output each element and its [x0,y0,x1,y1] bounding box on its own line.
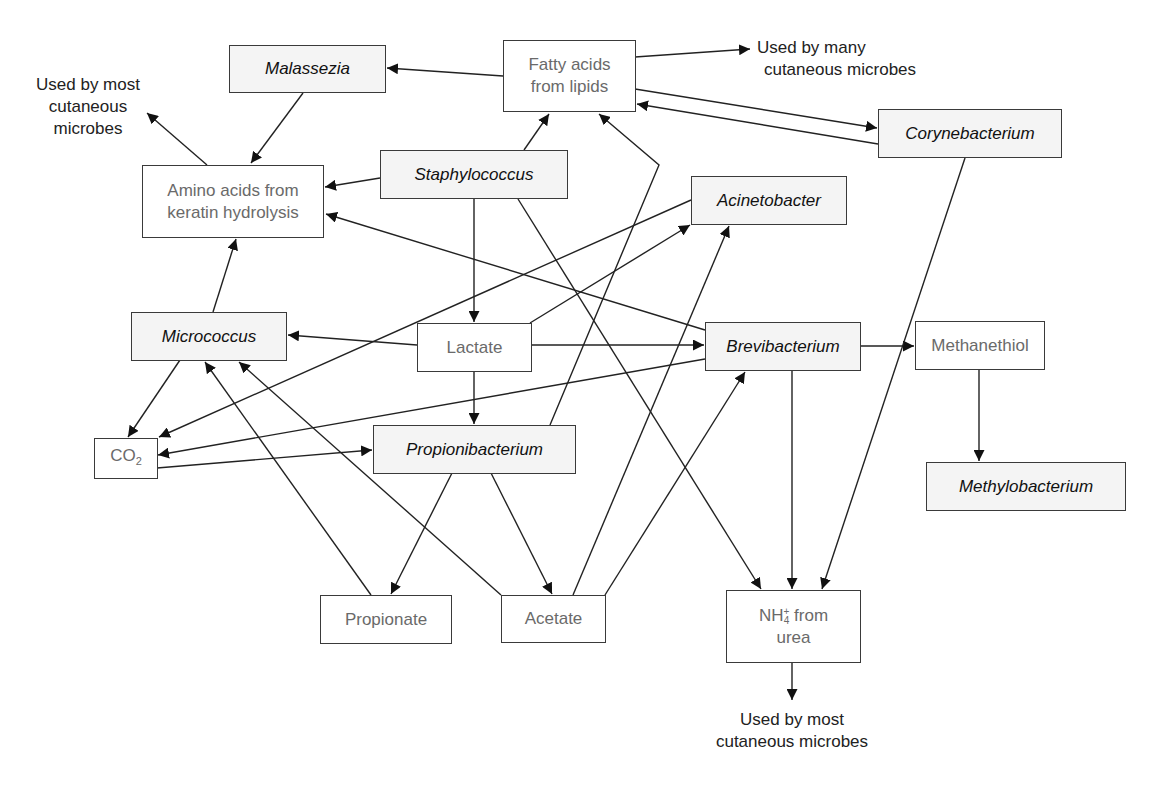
note-line1: Used by most [697,709,887,731]
node-label-line2: urea [776,627,810,649]
edge-corynebacterium-to-fatty-acids [637,104,878,144]
node-label: Acetate [525,608,583,630]
edge-lactate-to-micrococcus [288,335,417,345]
node-label: Staphylococcus [414,164,533,186]
node-label: CO2 [110,445,142,472]
note-line1: Used by most [18,74,158,96]
edge-staphylococcus-to-amino-acids [325,178,380,187]
node-label-line1: NH+4 from [759,605,828,627]
note-line1: Used by many [745,37,935,59]
edge-acetate-to-micrococcus [239,362,501,595]
nh4-rest: from [789,606,828,625]
node-lactate: Lactate [417,323,532,372]
edge-fatty-acids-to-malassezia [387,68,503,76]
note-used-by-most-top-left: Used by most cutaneous microbes [18,74,158,140]
node-amino-acids: Amino acids from keratin hydrolysis [142,165,324,238]
node-acinetobacter: Acinetobacter [691,176,847,225]
node-label: Acinetobacter [717,190,821,212]
node-micrococcus: Micrococcus [131,312,287,361]
node-propionate: Propionate [320,595,452,644]
edge-malassezia-to-amino-acids [251,93,303,163]
node-label: Propionibacterium [406,439,543,461]
node-label-line1: Fatty acids [528,54,610,76]
edge-fatty-acids-to-corynebacterium [635,89,877,128]
edge-brevibacterium-to-amino-acids [326,214,705,330]
edge-fatty-acids-to-note [635,49,750,57]
node-label: Corynebacterium [905,123,1034,145]
nh4-base: NH [759,606,784,625]
node-label-line2: keratin hydrolysis [167,202,298,224]
node-label: Methylobacterium [959,476,1093,498]
node-label-line1: Amino acids from [167,180,298,202]
node-fatty-acids: Fatty acids from lipids [503,40,636,112]
note-line2: cutaneous microbes [745,59,935,81]
edge-propionate-to-micrococcus [205,362,371,595]
node-label: Malassezia [265,58,350,80]
edge-staphylococcus-to-fatty-acids [524,114,549,150]
node-label-line2: from lipids [531,76,608,98]
node-label: Brevibacterium [726,336,839,358]
edge-acetate-to-brevibacterium [605,372,745,595]
note-line2: cutaneous [18,96,158,118]
edge-propionibacterium-to-acetate [491,473,552,594]
edge-lactate-to-acinetobacter [530,225,690,323]
node-label: Lactate [447,337,503,359]
edge-micrococcus-to-amino-acids [213,239,236,312]
co2-base: CO [110,446,136,465]
node-corynebacterium: Corynebacterium [878,109,1062,158]
node-label: Propionate [345,609,427,631]
edge-acetate-to-acinetobacter [573,226,729,595]
note-line2: cutaneous microbes [697,731,887,753]
node-methanethiol: Methanethiol [915,321,1045,370]
node-acetate: Acetate [501,595,606,643]
edge-co2-to-propionibacterium [157,450,372,468]
note-line3: microbes [18,118,158,140]
edge-staphylococcus-to-nh4 [518,199,761,589]
node-label: Micrococcus [162,326,256,348]
node-propionibacterium: Propionibacterium [373,425,576,474]
edge-propionibacterium-to-propionate [391,473,452,594]
co2-subscript: 2 [136,455,142,467]
node-malassezia: Malassezia [229,45,386,93]
node-nh4: NH+4 from urea [726,590,861,663]
note-used-by-most-bottom: Used by most cutaneous microbes [697,709,887,753]
node-methylobacterium: Methylobacterium [926,462,1126,511]
node-co2: CO2 [94,438,158,479]
node-label: Methanethiol [931,335,1028,357]
node-brevibacterium: Brevibacterium [705,322,861,371]
edge-micrococcus-to-co2 [128,360,180,437]
note-used-by-many: Used by many cutaneous microbes [745,37,935,81]
node-staphylococcus: Staphylococcus [380,150,568,199]
